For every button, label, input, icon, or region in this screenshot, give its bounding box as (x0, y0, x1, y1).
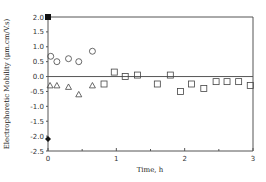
plot-frame (48, 17, 253, 151)
triangles-marker (66, 84, 72, 89)
y-tick-label: 2.0 (33, 14, 44, 22)
filled-diamond-marker (45, 136, 51, 142)
y-axis-label: Electrophoretic Mobility (μm.cm/V.s) (3, 18, 11, 149)
y-tick-label: 1.0 (33, 43, 44, 51)
y-tick-label: -2.0 (30, 133, 44, 141)
circles-marker (54, 59, 60, 65)
y-tick-label: -1.5 (30, 118, 44, 126)
squares-marker (213, 79, 219, 85)
y-tick-label: -1.0 (30, 103, 44, 111)
circles-marker (89, 48, 95, 54)
squares-marker (224, 79, 230, 85)
y-tick-label: -0.5 (30, 88, 44, 96)
squares-marker (236, 79, 242, 85)
squares-marker (201, 85, 207, 91)
x-tick-label: 2 (182, 155, 186, 163)
y-tick-label: 0.5 (33, 58, 44, 66)
circles-marker (76, 59, 82, 65)
squares-marker (154, 81, 160, 87)
squares-marker (101, 81, 107, 87)
data-points (45, 14, 253, 142)
squares-marker (178, 88, 184, 94)
squares-marker (135, 72, 141, 78)
x-tick-label: 1 (114, 155, 118, 163)
y-axis: 2.01.51.00.50.0-0.5-1.0-1.5-2.0-2.5 (30, 14, 48, 156)
squares-marker (111, 69, 117, 75)
x-axis-label: Time, h (137, 166, 164, 174)
scatter-chart: 2.01.51.00.50.0-0.5-1.0-1.5-2.0-2.5 0123… (0, 0, 266, 182)
circles-marker (66, 56, 72, 62)
circles-marker (48, 53, 54, 59)
x-tick-label: 3 (251, 155, 255, 163)
triangles-marker (76, 91, 82, 96)
x-axis: 0123 (46, 148, 255, 163)
y-tick-label: -2.5 (30, 148, 44, 156)
squares-marker (167, 72, 173, 78)
y-tick-label: 1.5 (33, 28, 44, 36)
x-tick-label: 0 (46, 155, 50, 163)
triangles-marker (89, 82, 95, 87)
squares-marker (189, 81, 195, 87)
y-tick-label: 0.0 (33, 73, 44, 81)
triangles-marker (54, 82, 60, 87)
squares-marker (247, 82, 253, 88)
filled-square-marker (45, 14, 51, 20)
